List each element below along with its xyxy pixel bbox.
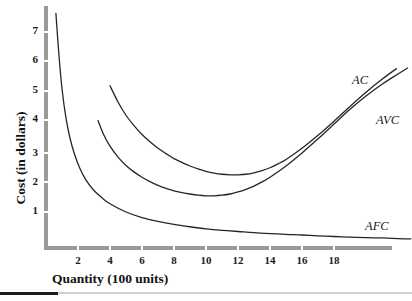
x-tick-label-8: 8 <box>164 254 184 266</box>
x-tick-label-2: 2 <box>68 254 88 266</box>
curve-label-ac: AC <box>352 73 368 88</box>
x-tick-label-14: 14 <box>260 254 280 266</box>
x-tick-label-4: 4 <box>100 254 120 266</box>
footer-rule-light <box>58 292 412 294</box>
curve-label-avc: AVC <box>376 113 399 128</box>
x-tick-label-16: 16 <box>292 254 312 266</box>
y-tick-label-7: 7 <box>24 24 38 36</box>
x-tick-label-18: 18 <box>324 254 344 266</box>
y-axis-title: Cost (in dollars) <box>13 93 29 223</box>
cost-curves-figure: 7 6 5 4 3 2 1 2 4 6 8 10 12 14 16 18 Qua… <box>0 0 412 301</box>
x-tick-label-6: 6 <box>132 254 152 266</box>
x-tick-label-12: 12 <box>228 254 248 266</box>
x-axis-title: Quantity (100 units) <box>52 271 168 287</box>
axis-group <box>44 6 392 250</box>
y-axis-line <box>44 6 48 250</box>
x-axis-line <box>44 246 392 250</box>
curve-group <box>56 13 411 238</box>
x-tick-label-10: 10 <box>196 254 216 266</box>
curve-afc <box>56 13 411 238</box>
footer-rule-dark <box>0 292 58 295</box>
curve-label-afc: AFC <box>365 219 389 234</box>
y-tick-label-6: 6 <box>24 53 38 65</box>
